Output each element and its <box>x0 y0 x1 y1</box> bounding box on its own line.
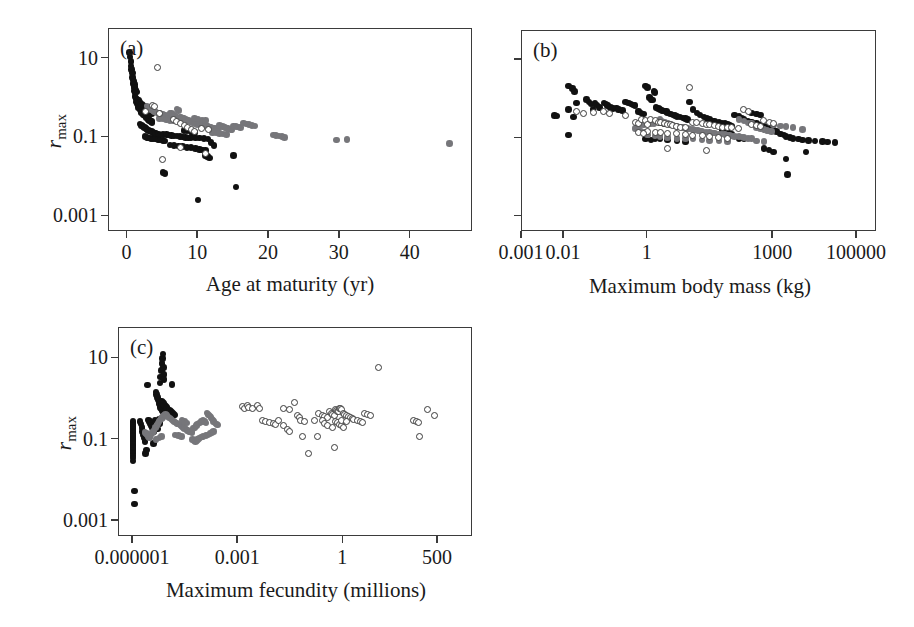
panel-c-data-points <box>119 328 473 537</box>
y-tick-mark <box>514 58 521 60</box>
data-point <box>803 149 810 156</box>
x-tick-mark <box>646 231 648 238</box>
panel-c-plot-frame <box>118 327 472 536</box>
x-tick-label: 10 <box>187 242 207 262</box>
data-point <box>230 152 237 159</box>
y-tick-label: 10 <box>28 48 98 68</box>
data-point <box>133 89 140 96</box>
data-point <box>664 130 671 137</box>
data-point <box>256 405 263 412</box>
panel-a-plot-frame <box>108 28 472 231</box>
data-point <box>753 138 760 145</box>
data-point <box>783 156 790 163</box>
data-point <box>175 107 182 114</box>
data-point <box>252 123 259 130</box>
scatter-figure: (a) 010203040100.10.001 rmax Age at matu… <box>0 0 914 627</box>
data-point <box>375 364 382 371</box>
data-point <box>142 108 149 115</box>
y-tick-mark <box>101 215 108 217</box>
data-point <box>198 125 205 132</box>
data-point <box>305 450 312 457</box>
x-tick-mark <box>562 231 564 238</box>
x-tick-label: 0.000001 <box>94 547 169 567</box>
data-point <box>416 433 423 440</box>
x-tick-label: 1000 <box>752 242 792 262</box>
data-point <box>415 419 422 426</box>
x-tick-mark <box>436 536 438 543</box>
x-tick-mark <box>855 231 857 238</box>
x-tick-mark <box>338 231 340 238</box>
panel-b-x-axis-label: Maximum body mass (kg) <box>589 276 811 297</box>
data-point <box>203 420 210 427</box>
data-point <box>169 381 176 388</box>
panel-a-letter: (a) <box>120 38 143 59</box>
data-point <box>664 145 671 152</box>
data-point <box>333 137 340 144</box>
data-point <box>286 428 293 435</box>
y-tick-mark <box>111 438 118 440</box>
panel-c-y-axis-label: rmax <box>53 373 79 493</box>
data-point <box>156 110 163 117</box>
data-point <box>359 419 366 426</box>
data-point <box>799 126 806 133</box>
x-tick-label: 0 <box>121 242 131 262</box>
data-point <box>210 428 217 435</box>
data-point <box>770 149 777 156</box>
data-point <box>580 110 587 117</box>
x-tick-label: 1 <box>642 242 652 262</box>
x-tick-label: 40 <box>400 242 420 262</box>
data-point <box>223 131 230 138</box>
data-point <box>184 420 191 427</box>
data-point <box>161 376 168 383</box>
data-point <box>657 129 664 136</box>
x-tick-label: 500 <box>422 547 452 567</box>
data-point <box>686 99 693 106</box>
y-tick-mark <box>111 519 118 521</box>
data-point <box>424 406 431 413</box>
data-point <box>159 156 166 163</box>
data-point <box>644 84 651 91</box>
data-point <box>728 124 735 131</box>
data-point <box>784 171 791 178</box>
y-tick-label: 0.001 <box>38 510 108 530</box>
x-tick-mark <box>342 536 344 543</box>
data-point <box>149 119 156 126</box>
data-point <box>158 433 165 440</box>
data-point <box>573 100 580 107</box>
panel-b-letter: (b) <box>533 40 558 61</box>
x-tick-mark <box>267 231 269 238</box>
data-point <box>606 110 613 117</box>
data-point <box>571 88 578 95</box>
x-tick-label: 0.001 <box>499 242 544 262</box>
panel-a-x-axis-label: Age at maturity (yr) <box>206 274 375 295</box>
x-tick-mark <box>196 231 198 238</box>
data-point <box>291 399 298 406</box>
data-point <box>344 136 351 143</box>
data-point <box>178 433 185 440</box>
data-point <box>286 406 293 413</box>
y-tick-label: 0.001 <box>28 205 98 225</box>
data-point <box>202 150 209 157</box>
data-point <box>311 417 318 424</box>
data-point <box>446 140 453 147</box>
data-point <box>131 488 138 495</box>
y-tick-mark <box>101 136 108 138</box>
x-tick-label: 0.01 <box>545 242 580 262</box>
x-tick-label: 1 <box>337 547 347 567</box>
data-point <box>143 447 150 454</box>
data-point <box>195 197 202 204</box>
data-point <box>640 130 647 137</box>
y-tick-mark <box>514 215 521 217</box>
data-point <box>590 109 597 116</box>
data-point <box>131 501 138 508</box>
data-point <box>805 137 812 144</box>
data-point <box>160 364 167 371</box>
data-point <box>214 422 221 429</box>
data-point <box>832 139 839 146</box>
panel-c-letter: (c) <box>130 337 153 358</box>
data-point <box>431 412 438 419</box>
data-point <box>724 135 731 142</box>
data-point <box>177 144 184 151</box>
data-point <box>812 138 819 145</box>
data-point <box>649 97 656 104</box>
